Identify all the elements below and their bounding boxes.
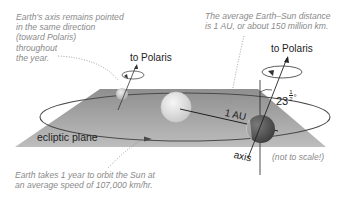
tilt-number: 23 xyxy=(276,95,288,107)
ecliptic-plane-label: ecliptic plane xyxy=(37,131,98,143)
earth-far-axis-arrow xyxy=(134,64,138,69)
tilt-fraction: 12 xyxy=(289,89,292,102)
tilt-fraction-num: 1 xyxy=(289,89,292,96)
scale-note: (not to scale!) xyxy=(272,152,324,162)
distance-note: The average Earth–Sun distance is 1 AU, … xyxy=(205,11,331,31)
axis-note: Earth's axis remains pointed in the same… xyxy=(16,12,124,63)
earth-near-spin-arrowhead xyxy=(268,70,274,76)
earth-far-spin-arrow xyxy=(122,71,144,79)
polaris-label-right: to Polaris xyxy=(271,43,313,54)
tilt-degree: ° xyxy=(294,93,297,102)
orbit-note: Earth takes 1 year to orbit the Sun at a… xyxy=(15,170,155,190)
tilt-angle-label: 2312° xyxy=(276,89,297,107)
sun xyxy=(161,92,191,122)
earth-near-axis-arrow xyxy=(284,56,289,63)
polaris-label-left: to Polaris xyxy=(130,52,172,63)
tilt-fraction-den: 2 xyxy=(289,96,292,102)
tilt-angle-arc xyxy=(260,89,272,92)
